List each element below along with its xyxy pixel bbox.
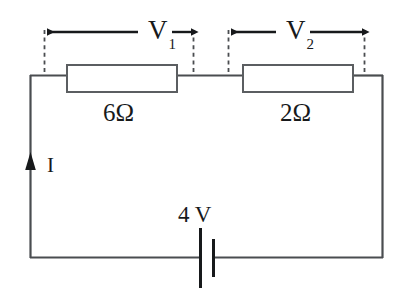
circuit-diagram: V1 V2 6Ω 2Ω I 4 V — [0, 0, 409, 300]
circuit-schematic-svg — [0, 0, 409, 300]
resistor-2-ohm-label: 2Ω — [280, 100, 311, 125]
voltage-label-v2: V2 — [286, 17, 313, 48]
voltage-label-v2-text: V — [286, 15, 306, 45]
resistor-6-ohm-label: 6Ω — [103, 100, 134, 125]
voltage-label-v2-subscript: 2 — [307, 36, 315, 52]
resistor-6-ohm-body — [67, 65, 177, 92]
battery-voltage-label: 4 V — [178, 203, 211, 226]
resistor-2-ohm-body — [243, 65, 353, 92]
current-arrow-head — [25, 152, 36, 170]
voltage-label-v1-subscript: 1 — [169, 36, 177, 52]
voltage-label-v1: V1 — [148, 17, 175, 48]
circuit-loop-wires — [30, 75, 383, 258]
voltage-label-v1-text: V — [148, 15, 168, 45]
battery-symbol — [201, 228, 214, 288]
current-label: I — [47, 155, 54, 176]
